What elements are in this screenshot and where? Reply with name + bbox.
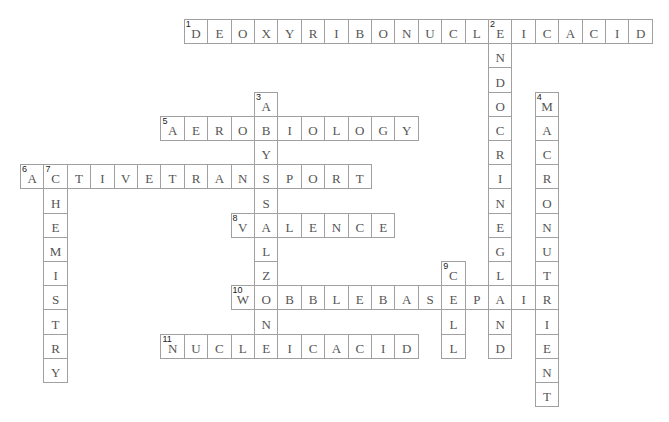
crossword-cell[interactable]: R [207, 116, 231, 141]
crossword-cell[interactable]: O [348, 116, 372, 141]
crossword-cell[interactable]: E [441, 285, 465, 310]
crossword-cell[interactable]: O [488, 92, 512, 117]
crossword-cell[interactable]: C [441, 19, 465, 44]
crossword-cell[interactable]: E [254, 334, 278, 359]
crossword-cell[interactable]: C [348, 213, 372, 238]
crossword-cell[interactable]: R [535, 164, 559, 189]
crossword-cell[interactable]: V [114, 164, 138, 189]
crossword-cell[interactable]: M [43, 237, 67, 262]
crossword-cell[interactable]: E [488, 213, 512, 238]
crossword-cell[interactable]: B [254, 116, 278, 141]
crossword-cell[interactable]: T [348, 164, 372, 189]
crossword-cell[interactable]: D [394, 334, 418, 359]
crossword-cell[interactable]: E [43, 213, 67, 238]
crossword-cell[interactable]: S [43, 285, 67, 310]
crossword-cell[interactable]: U [418, 19, 442, 44]
crossword-cell[interactable]: X [254, 19, 278, 44]
crossword-cell[interactable]: B [348, 19, 372, 44]
crossword-cell[interactable]: O [301, 164, 325, 189]
crossword-cell[interactable]: T [160, 164, 184, 189]
crossword-cell[interactable]: O [371, 19, 395, 44]
crossword-cell[interactable]: A [488, 285, 512, 310]
crossword-cell[interactable]: Y [394, 116, 418, 141]
crossword-cell[interactable]: O [301, 116, 325, 141]
crossword-cell[interactable]: L [441, 334, 465, 359]
crossword-cell[interactable]: G [488, 237, 512, 262]
crossword-cell[interactable]: C [535, 19, 559, 44]
crossword-cell[interactable]: R [488, 140, 512, 165]
crossword-cell[interactable]: C [301, 334, 325, 359]
crossword-cell[interactable]: I [511, 19, 535, 44]
crossword-cell[interactable]: 11N [160, 334, 184, 359]
crossword-cell[interactable]: N [488, 188, 512, 213]
crossword-cell[interactable]: E [371, 213, 395, 238]
crossword-cell[interactable]: E [348, 285, 372, 310]
crossword-cell[interactable]: Z [254, 261, 278, 286]
crossword-cell[interactable]: H [43, 188, 67, 213]
crossword-cell[interactable]: B [371, 285, 395, 310]
crossword-cell[interactable]: A [207, 164, 231, 189]
crossword-cell[interactable]: B [277, 285, 301, 310]
crossword-cell[interactable]: N [231, 164, 255, 189]
crossword-cell[interactable]: L [231, 334, 255, 359]
crossword-cell[interactable]: N [254, 309, 278, 334]
crossword-cell[interactable]: N [394, 19, 418, 44]
crossword-cell[interactable]: R [535, 285, 559, 310]
crossword-cell[interactable]: Y [254, 140, 278, 165]
crossword-cell[interactable]: I [324, 19, 348, 44]
crossword-cell[interactable]: I [277, 334, 301, 359]
crossword-cell[interactable]: G [371, 116, 395, 141]
crossword-cell[interactable]: S [254, 188, 278, 213]
crossword-cell[interactable]: I [488, 164, 512, 189]
crossword-cell[interactable]: D [488, 334, 512, 359]
crossword-cell[interactable]: D [628, 19, 652, 44]
crossword-cell[interactable]: I [371, 334, 395, 359]
crossword-cell[interactable]: C [207, 334, 231, 359]
crossword-cell[interactable]: L [465, 19, 489, 44]
crossword-cell[interactable]: 10W [231, 285, 255, 310]
crossword-cell[interactable]: I [277, 116, 301, 141]
crossword-cell[interactable]: N [488, 43, 512, 68]
crossword-cell[interactable]: E [184, 116, 208, 141]
crossword-cell[interactable]: 9C [441, 261, 465, 286]
crossword-cell[interactable]: D [488, 67, 512, 92]
crossword-cell[interactable]: S [418, 285, 442, 310]
crossword-cell[interactable]: I [605, 19, 629, 44]
crossword-cell[interactable]: A [394, 285, 418, 310]
crossword-cell[interactable]: I [535, 309, 559, 334]
crossword-cell[interactable]: E [301, 213, 325, 238]
crossword-cell[interactable]: 6A [20, 164, 44, 189]
crossword-cell[interactable]: Y [43, 358, 67, 383]
crossword-cell[interactable]: T [535, 382, 559, 407]
crossword-cell[interactable]: E [137, 164, 161, 189]
crossword-cell[interactable]: N [488, 309, 512, 334]
crossword-cell[interactable]: N [535, 358, 559, 383]
crossword-cell[interactable]: N [535, 213, 559, 238]
crossword-cell[interactable]: U [184, 334, 208, 359]
crossword-cell[interactable]: L [488, 261, 512, 286]
crossword-cell[interactable]: O [535, 188, 559, 213]
crossword-cell[interactable]: L [324, 116, 348, 141]
crossword-cell[interactable]: A [324, 334, 348, 359]
crossword-cell[interactable]: T [535, 261, 559, 286]
crossword-cell[interactable]: I [43, 261, 67, 286]
crossword-cell[interactable]: L [441, 309, 465, 334]
crossword-cell[interactable]: O [254, 285, 278, 310]
crossword-cell[interactable]: N [324, 213, 348, 238]
crossword-cell[interactable]: I [511, 285, 535, 310]
crossword-cell[interactable]: U [535, 237, 559, 262]
crossword-cell[interactable]: C [535, 140, 559, 165]
crossword-cell[interactable]: 8V [231, 213, 255, 238]
crossword-cell[interactable]: P [277, 164, 301, 189]
crossword-cell[interactable]: 1D [184, 19, 208, 44]
crossword-cell[interactable]: E [207, 19, 231, 44]
crossword-cell[interactable]: C [348, 334, 372, 359]
crossword-cell[interactable]: L [324, 285, 348, 310]
crossword-cell[interactable]: 4M [535, 92, 559, 117]
crossword-cell[interactable]: L [277, 213, 301, 238]
crossword-cell[interactable]: Y [277, 19, 301, 44]
crossword-cell[interactable]: A [535, 116, 559, 141]
crossword-cell[interactable]: O [231, 116, 255, 141]
crossword-cell[interactable]: 2E [488, 19, 512, 44]
crossword-cell[interactable]: O [231, 19, 255, 44]
